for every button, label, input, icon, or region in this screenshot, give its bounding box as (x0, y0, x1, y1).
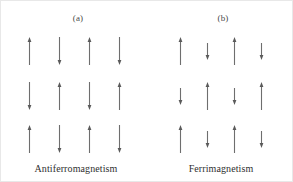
spin-arrow-down (230, 85, 239, 108)
spin-site (104, 34, 134, 68)
spin-site (44, 34, 74, 68)
spin-site (14, 122, 44, 156)
spin-row (148, 79, 293, 113)
spin-site (14, 79, 44, 113)
spin-site (221, 34, 248, 68)
spin-row (1, 34, 147, 68)
spin-arrow-up (85, 122, 94, 156)
spin-site (104, 122, 134, 156)
magnetic-ordering-figure: (a) Antiferromagnetism (b) Ferrimagnetis… (0, 0, 293, 182)
spin-arrow-up (176, 34, 185, 68)
panel-label-b: (b) (148, 13, 293, 23)
spin-arrow-down (176, 85, 185, 108)
spin-site (248, 34, 275, 68)
spin-arrow-up (55, 79, 64, 113)
spin-arrow-up (25, 122, 34, 156)
spin-site (44, 122, 74, 156)
spin-site (194, 122, 221, 156)
spin-site (74, 79, 104, 113)
spin-arrow-up (230, 34, 239, 68)
spin-row (148, 34, 293, 68)
spin-site (74, 122, 104, 156)
spin-lattice-b (148, 34, 293, 152)
caption-ferrimagnetism: Ferrimagnetism (148, 163, 293, 174)
spin-arrow-up (176, 122, 185, 156)
spin-arrow-up (257, 79, 266, 113)
spin-site (104, 79, 134, 113)
spin-arrow-down (257, 128, 266, 151)
spin-arrow-down (115, 34, 124, 68)
spin-site (221, 122, 248, 156)
spin-arrow-up (230, 122, 239, 156)
spin-site (194, 34, 221, 68)
spin-site (74, 34, 104, 68)
spin-arrow-up (203, 79, 212, 113)
spin-site (167, 79, 194, 113)
spin-site (167, 34, 194, 68)
spin-arrow-up (25, 34, 34, 68)
spin-arrow-down (85, 79, 94, 113)
spin-row (1, 79, 147, 113)
spin-arrow-down (115, 122, 124, 156)
panel-antiferromagnetism: (a) Antiferromagnetism (1, 1, 147, 182)
spin-site (167, 122, 194, 156)
spin-site (194, 79, 221, 113)
caption-antiferromagnetism: Antiferromagnetism (1, 163, 149, 174)
spin-arrow-down (203, 40, 212, 63)
spin-site (14, 34, 44, 68)
spin-site (248, 122, 275, 156)
spin-arrow-down (203, 128, 212, 151)
panel-ferrimagnetism: (b) Ferrimagnetism (148, 1, 293, 182)
spin-row (148, 122, 293, 156)
spin-arrow-down (257, 40, 266, 63)
spin-row (1, 122, 147, 156)
spin-arrow-down (55, 34, 64, 68)
spin-arrow-down (25, 79, 34, 113)
spin-arrow-up (115, 79, 124, 113)
spin-site (221, 79, 248, 113)
panel-label-a: (a) (1, 13, 151, 23)
spin-arrow-down (55, 122, 64, 156)
spin-arrow-up (85, 34, 94, 68)
spin-site (44, 79, 74, 113)
spin-site (248, 79, 275, 113)
spin-lattice-a (1, 34, 147, 152)
